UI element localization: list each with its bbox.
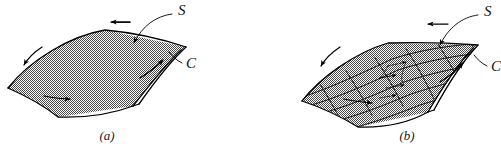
panel-a: S C (a) (8, 2, 197, 143)
s-leader-line-b (440, 15, 478, 45)
left-edge-arrow-b (321, 47, 340, 66)
surface-label-s-b: S (484, 3, 492, 19)
panel-caption-b: (b) (399, 128, 414, 143)
panel-caption-a: (a) (99, 128, 114, 143)
boundary-label-c-b: C (491, 58, 501, 74)
panel-b: S C (b) (296, 3, 501, 143)
surface-label-s-a: S (178, 2, 186, 18)
c-leader-line-b (474, 55, 487, 66)
label-s-leader-b (440, 15, 478, 45)
figure-container: S C (a) (0, 0, 501, 156)
boundary-label-c-a: C (186, 55, 197, 71)
label-c-leader-b (474, 55, 487, 66)
figure-canvas: S C (a) (0, 0, 501, 156)
